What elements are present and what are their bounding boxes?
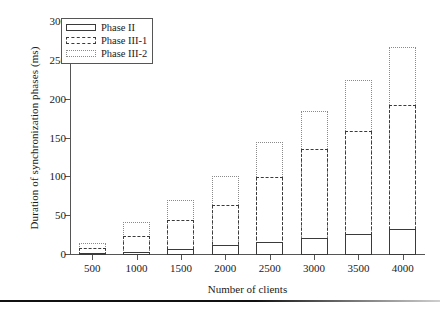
bar-segment: [256, 242, 283, 255]
bar-group: [345, 22, 372, 255]
y-axis-title: Duration of synchronization phases (ms): [28, 18, 40, 258]
x-tick-mark: [403, 255, 404, 260]
chart-legend: Phase IIPhase III-1Phase III-2: [61, 18, 153, 64]
x-tick-mark: [225, 255, 226, 260]
bar-group: [256, 22, 283, 255]
legend-swatch-icon: [66, 24, 96, 31]
x-axis-title: Number of clients: [70, 283, 425, 295]
bar-group: [301, 22, 328, 255]
legend-item: Phase III-1: [66, 34, 147, 47]
x-tick-label: 4000: [373, 262, 433, 274]
x-tick-mark: [270, 255, 271, 260]
y-tick-label: 0: [61, 246, 67, 262]
y-tick-label: 150: [50, 130, 67, 146]
legend-label: Phase III-2: [101, 48, 147, 60]
x-tick-mark: [92, 255, 93, 260]
x-tick-mark: [137, 255, 138, 260]
bar-group: [389, 22, 416, 255]
legend-swatch-icon: [66, 37, 96, 44]
x-tick-mark: [181, 255, 182, 260]
legend-swatch-icon: [66, 50, 96, 57]
bar-group: [167, 22, 194, 255]
bar-group: [212, 22, 239, 255]
bar-segment: [212, 245, 239, 255]
bar-segment: [301, 238, 328, 255]
x-tick-mark: [314, 255, 315, 260]
legend-item: Phase II: [66, 21, 147, 34]
legend-label: Phase III-1: [101, 35, 147, 47]
chart-figure: Duration of synchronization phases (ms) …: [0, 0, 440, 309]
y-tick-label: 50: [55, 207, 66, 223]
y-tick-label: 200: [50, 91, 67, 107]
x-tick-mark: [358, 255, 359, 260]
legend-item: Phase III-2: [66, 47, 147, 60]
y-tick-label: 100: [50, 168, 67, 184]
bar-segment: [345, 234, 372, 255]
page-divider-rule: [0, 300, 440, 302]
bar-segment: [389, 229, 416, 255]
legend-label: Phase II: [101, 22, 135, 34]
